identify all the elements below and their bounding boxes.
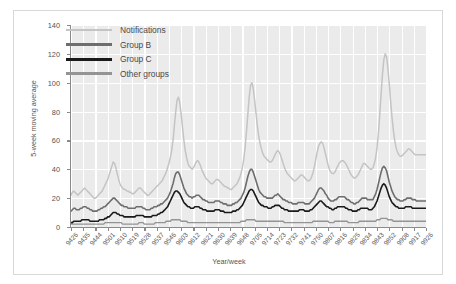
x-tick-label: 9843 xyxy=(370,231,385,247)
x-tick-label: 9908 xyxy=(395,231,410,247)
x-tick-mark xyxy=(120,228,121,231)
x-tick-mark xyxy=(169,228,170,231)
x-tick-label: 9630 xyxy=(211,231,226,247)
x-tick-mark xyxy=(242,228,243,231)
y-tick-label: 60 xyxy=(52,136,60,145)
x-tick-mark xyxy=(426,228,427,231)
legend-label: Notifications xyxy=(120,25,166,35)
series-line xyxy=(71,218,426,224)
x-tick-mark xyxy=(267,228,268,231)
legend-swatch xyxy=(66,43,112,46)
chart-figure: 020406080100120140 5-week moving average… xyxy=(13,10,443,275)
x-tick-label: 9825 xyxy=(346,231,361,247)
x-tick-mark xyxy=(255,228,256,231)
gridline-vertical xyxy=(426,25,427,227)
x-tick-mark xyxy=(316,228,317,231)
x-tick-label: 9528 xyxy=(138,231,153,247)
x-tick-mark xyxy=(206,228,207,231)
x-tick-label: 9807 xyxy=(321,231,336,247)
x-tick-mark xyxy=(108,228,109,231)
x-tick-mark xyxy=(365,228,366,231)
x-tick-label: 9816 xyxy=(333,231,348,247)
x-tick-mark xyxy=(279,228,280,231)
y-tick-label: 0 xyxy=(56,223,60,232)
x-tick-label: 9537 xyxy=(150,231,165,247)
legend-item: Group B xyxy=(66,38,169,53)
x-tick-mark xyxy=(71,228,72,231)
y-axis-ticks: 020406080100120140 xyxy=(14,11,67,241)
x-tick-label: 9834 xyxy=(358,231,373,247)
legend-swatch xyxy=(66,29,112,31)
x-tick-mark xyxy=(328,228,329,231)
x-tick-mark xyxy=(83,228,84,231)
y-tick-label: 100 xyxy=(48,78,60,87)
y-tick-label: 40 xyxy=(52,165,60,174)
legend-item: Other groups xyxy=(66,67,169,82)
x-tick-mark xyxy=(340,228,341,231)
y-tick-label: 20 xyxy=(52,194,60,203)
x-tick-label: 9714 xyxy=(260,231,275,247)
legend-label: Group C xyxy=(120,54,152,64)
x-tick-label: 9723 xyxy=(272,231,287,247)
legend-item: Notifications xyxy=(66,23,169,38)
x-tick-mark xyxy=(95,228,96,231)
x-tick-label: 9741 xyxy=(297,231,312,247)
x-tick-label: 9501 xyxy=(101,231,116,247)
x-tick-label: 9510 xyxy=(113,231,128,247)
y-tick-label: 120 xyxy=(48,49,60,58)
x-axis-label: Year/week xyxy=(14,257,444,266)
x-tick-mark xyxy=(132,228,133,231)
legend-label: Other groups xyxy=(120,69,169,79)
legend-label: Group B xyxy=(120,40,151,50)
x-tick-mark xyxy=(144,228,145,231)
legend-swatch xyxy=(66,58,112,61)
x-tick-label: 9732 xyxy=(285,231,300,247)
y-tick-label: 140 xyxy=(48,21,60,30)
x-tick-mark xyxy=(402,228,403,231)
x-tick-label: 9444 xyxy=(89,231,104,247)
x-tick-label: 9648 xyxy=(236,231,251,247)
x-tick-mark xyxy=(389,228,390,231)
x-tick-label: 9926 xyxy=(419,231,434,247)
x-tick-mark xyxy=(157,228,158,231)
x-tick-mark xyxy=(230,228,231,231)
legend-item: Group C xyxy=(66,52,169,67)
x-tick-label: 9546 xyxy=(162,231,177,247)
y-tick-label: 80 xyxy=(52,107,60,116)
x-tick-label: 9639 xyxy=(223,231,238,247)
x-tick-mark xyxy=(377,228,378,231)
x-tick-mark xyxy=(304,228,305,231)
y-axis-label: 5-week moving average xyxy=(29,54,38,184)
x-tick-mark xyxy=(291,228,292,231)
x-tick-mark xyxy=(218,228,219,231)
x-tick-mark xyxy=(353,228,354,231)
x-tick-mark xyxy=(414,228,415,231)
x-tick-label: 9750 xyxy=(309,231,324,247)
legend-swatch xyxy=(66,72,112,75)
x-tick-label: 9852 xyxy=(382,231,397,247)
x-tick-mark xyxy=(193,228,194,231)
chart-legend: NotificationsGroup BGroup COther groups xyxy=(66,23,169,81)
x-tick-mark xyxy=(181,228,182,231)
x-tick-label: 9612 xyxy=(187,231,202,247)
x-tick-label: 9705 xyxy=(248,231,263,247)
x-tick-label: 9621 xyxy=(199,231,214,247)
